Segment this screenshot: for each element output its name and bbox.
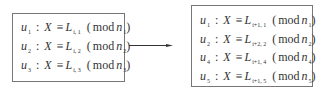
modulus: n — [302, 50, 308, 64]
open-paren: ( — [272, 50, 276, 64]
l-term: L — [244, 32, 251, 46]
colon: : — [36, 20, 39, 34]
congruence-symbol: ≡ — [236, 13, 243, 27]
congruence-row: u2 : X ≡Li+2, 2 (modn2) — [200, 30, 312, 49]
modulus: n — [116, 39, 122, 53]
congruence-symbol: ≡ — [236, 69, 243, 83]
l-subscript: i+1, 4 — [252, 59, 266, 65]
close-paren: ) — [312, 69, 316, 83]
congruence-row: u2 : X ≡Li, 2 (modn2) — [21, 37, 124, 56]
congruence-row: u4 : X ≡Li+1, 4 (modn4) — [200, 48, 312, 67]
congruence-symbol: ≡ — [57, 58, 64, 72]
variable-subscript: 1 — [207, 22, 210, 28]
lhs-variable: X — [223, 50, 230, 64]
l-subscript: i+1, 5 — [252, 78, 266, 84]
l-term: L — [244, 13, 251, 27]
right-arrow-icon — [129, 44, 173, 47]
lhs-variable: X — [223, 69, 230, 83]
congruence-row: u3 : X ≡Li, 3 (modn3) — [21, 56, 124, 75]
variable-subscript: 3 — [28, 67, 31, 73]
open-paren: ( — [87, 39, 91, 53]
mod-keyword: mod — [278, 32, 299, 46]
modulus: n — [302, 13, 308, 27]
l-term: L — [244, 50, 251, 64]
variable-subscript: 4 — [207, 59, 210, 65]
open-paren: ( — [87, 20, 91, 34]
mod-keyword: mod — [93, 39, 114, 53]
lhs-variable: X — [44, 58, 51, 72]
mod-keyword: mod — [278, 13, 299, 27]
open-paren: ( — [87, 58, 91, 72]
lhs-variable: X — [44, 20, 51, 34]
lhs-variable: X — [44, 39, 51, 53]
congruence-symbol: ≡ — [57, 39, 64, 53]
variable-subscript: 2 — [28, 48, 31, 54]
congruence-symbol: ≡ — [236, 50, 243, 64]
congruence-row: u1 : X ≡Li, 1 (modn1) — [21, 18, 124, 37]
close-paren: ) — [312, 50, 316, 64]
congruence-row: u1 : X ≡Li+1, 1 (modn1) — [200, 11, 312, 30]
l-subscript: i+1, 1 — [252, 22, 266, 28]
variable: u — [21, 39, 27, 53]
open-paren: ( — [272, 32, 276, 46]
mod-keyword: mod — [278, 69, 299, 83]
close-paren: ) — [126, 58, 130, 72]
open-paren: ( — [272, 13, 276, 27]
mod-keyword: mod — [93, 58, 114, 72]
lhs-variable: X — [223, 13, 230, 27]
colon: : — [215, 32, 218, 46]
l-term: L — [65, 39, 72, 53]
open-paren: ( — [272, 69, 276, 83]
l-term: L — [65, 20, 72, 34]
variable: u — [200, 69, 206, 83]
colon: : — [215, 69, 218, 83]
congruence-row: u5 : X ≡Li+1, 5 (modn5) — [200, 67, 312, 86]
l-term: L — [65, 58, 72, 72]
variable: u — [200, 32, 206, 46]
modulus: n — [302, 69, 308, 83]
variable-subscript: 1 — [28, 29, 31, 35]
colon: : — [36, 39, 39, 53]
congruence-symbol: ≡ — [57, 20, 64, 34]
modulus: n — [116, 20, 122, 34]
l-subscript: i, 2 — [73, 48, 81, 54]
close-paren: ) — [126, 20, 130, 34]
close-paren: ) — [312, 32, 316, 46]
variable-subscript: 5 — [207, 78, 210, 84]
l-subscript: i, 3 — [73, 67, 81, 73]
left-congruence-box: u1 : X ≡Li, 1 (modn1) u2 : X ≡Li, 2 (mod… — [12, 13, 125, 82]
right-congruence-box: u1 : X ≡Li+1, 1 (modn1) u2 : X ≡Li+2, 2 … — [191, 5, 313, 87]
mod-keyword: mod — [278, 50, 299, 64]
variable: u — [21, 58, 27, 72]
modulus: n — [302, 32, 308, 46]
colon: : — [215, 50, 218, 64]
colon: : — [215, 13, 218, 27]
mod-keyword: mod — [93, 20, 114, 34]
variable-subscript: 2 — [207, 41, 210, 47]
colon: : — [36, 58, 39, 72]
close-paren: ) — [312, 13, 316, 27]
l-subscript: i, 1 — [73, 29, 81, 35]
l-term: L — [244, 69, 251, 83]
l-subscript: i+2, 2 — [252, 41, 266, 47]
variable: u — [21, 20, 27, 34]
modulus: n — [116, 58, 122, 72]
variable: u — [200, 13, 206, 27]
lhs-variable: X — [223, 32, 230, 46]
congruence-symbol: ≡ — [236, 32, 243, 46]
variable: u — [200, 50, 206, 64]
